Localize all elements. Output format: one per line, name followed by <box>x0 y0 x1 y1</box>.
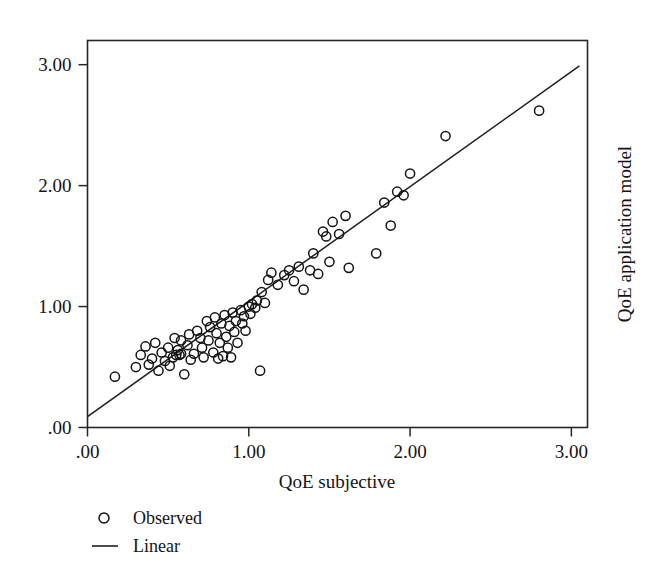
legend-observed-label: Observed <box>133 508 202 528</box>
x-tick-label: 2.00 <box>393 441 426 462</box>
data-point <box>131 362 140 371</box>
legend-observed-marker-icon <box>99 513 109 523</box>
data-point <box>180 370 189 379</box>
data-point <box>344 263 353 272</box>
legend-linear-label: Linear <box>133 536 180 556</box>
x-tick-label: .00 <box>76 441 100 462</box>
x-tick-label: 1.00 <box>232 441 265 462</box>
data-point <box>225 321 234 330</box>
x-axis-title: QoE subjective <box>279 471 396 492</box>
x-axis-ticks: .001.002.003.00 <box>76 428 588 462</box>
data-point <box>141 342 150 351</box>
data-point <box>212 329 221 338</box>
data-point <box>341 211 350 220</box>
data-point <box>255 366 264 375</box>
data-point <box>289 277 298 286</box>
data-point <box>405 169 414 178</box>
data-point <box>209 348 218 357</box>
chart-legend: Observed Linear <box>92 508 202 556</box>
x-tick-label: 3.00 <box>555 441 588 462</box>
data-point <box>110 372 119 381</box>
data-point <box>314 269 323 278</box>
data-point <box>325 257 334 266</box>
data-point <box>164 343 173 352</box>
scatter-plot-figure: .001.002.003.00 .001.002.003.00 QoE subj… <box>0 0 656 563</box>
data-point <box>154 366 163 375</box>
y-tick-label: 2.00 <box>38 175 71 196</box>
data-point <box>535 106 544 115</box>
observed-data-points <box>110 106 543 381</box>
data-point <box>328 217 337 226</box>
data-point <box>299 285 308 294</box>
data-point <box>204 336 213 345</box>
data-point <box>233 338 242 347</box>
data-point <box>136 350 145 359</box>
y-axis-title-right: QoE application model <box>614 146 635 322</box>
y-tick-label: 3.00 <box>38 54 71 75</box>
data-point <box>199 353 208 362</box>
data-point <box>372 249 381 258</box>
data-point <box>230 327 239 336</box>
y-axis-ticks: .001.002.003.00 <box>38 54 87 438</box>
data-point <box>386 221 395 230</box>
data-point <box>223 343 232 352</box>
y-tick-label: 1.00 <box>38 296 71 317</box>
y-tick-label: .00 <box>48 417 72 438</box>
data-point <box>260 298 269 307</box>
data-point <box>441 131 450 140</box>
data-point <box>151 338 160 347</box>
chart-canvas: .001.002.003.00 .001.002.003.00 QoE subj… <box>0 0 656 563</box>
